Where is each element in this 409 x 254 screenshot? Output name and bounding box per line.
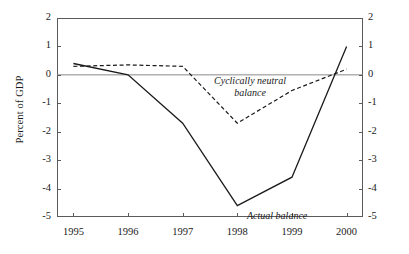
y-tickmark-left--3 bbox=[57, 160, 61, 161]
y-tick-right-1: 1 bbox=[368, 39, 390, 50]
x-tick-1995: 1995 bbox=[53, 226, 93, 237]
y-tick-left-0: 0 bbox=[29, 68, 51, 79]
x-tickmark-1998 bbox=[237, 213, 238, 217]
y-tickmark-right-1 bbox=[359, 46, 363, 47]
y-tickmark-left-1 bbox=[57, 46, 61, 47]
series-label-cyclically-neutral: Cyclically neutral balance bbox=[190, 75, 310, 98]
x-tickmark-2000 bbox=[347, 213, 348, 217]
y-tick-right-0: 0 bbox=[368, 68, 390, 79]
y-tickmark-right-0 bbox=[359, 75, 363, 76]
y-tickmark-right--1 bbox=[359, 103, 363, 104]
x-tickmark-1997 bbox=[183, 213, 184, 217]
x-tick-1996: 1996 bbox=[108, 226, 148, 237]
y-tick-right--1: -1 bbox=[368, 96, 390, 107]
y-tick-right--2: -2 bbox=[368, 125, 390, 136]
series-label-cyclically-neutral-line2: balance bbox=[190, 87, 310, 99]
x-tick-2000: 2000 bbox=[327, 226, 367, 237]
figure-panel: Percent of GDP 210-1-2-3-4-5 210-1-2-3-4… bbox=[0, 0, 409, 254]
y-tickmark-left--2 bbox=[57, 132, 61, 133]
x-tick-1999: 1999 bbox=[272, 226, 312, 237]
series-label-cyclically-neutral-line1: Cyclically neutral bbox=[190, 75, 310, 87]
x-tick-1998: 1998 bbox=[217, 226, 257, 237]
y-tickmark-left-0 bbox=[57, 75, 61, 76]
y-tick-left--4: -4 bbox=[29, 182, 51, 193]
y-tick-right--5: -5 bbox=[368, 210, 390, 221]
x-tickmark-1995 bbox=[73, 213, 74, 217]
y-tickmark-right--2 bbox=[359, 132, 363, 133]
y-tickmark-left--4 bbox=[57, 189, 61, 190]
y-tick-right--4: -4 bbox=[368, 182, 390, 193]
y-tick-left-1: 1 bbox=[29, 39, 51, 50]
y-tick-right--3: -3 bbox=[368, 153, 390, 164]
series-label-actual: Actual balance bbox=[247, 210, 337, 222]
series-line-actual-balance bbox=[73, 46, 346, 205]
y-tick-left-2: 2 bbox=[29, 11, 51, 22]
y-tick-left--3: -3 bbox=[29, 153, 51, 164]
y-tick-left--5: -5 bbox=[29, 210, 51, 221]
chart-series-layer bbox=[0, 0, 409, 254]
x-tick-1997: 1997 bbox=[163, 226, 203, 237]
y-tickmark-right--3 bbox=[359, 160, 363, 161]
y-tick-right-2: 2 bbox=[368, 11, 390, 22]
y-tickmark-left--1 bbox=[57, 103, 61, 104]
y-tickmark-right--4 bbox=[359, 189, 363, 190]
y-tick-left--1: -1 bbox=[29, 96, 51, 107]
y-tick-left--2: -2 bbox=[29, 125, 51, 136]
x-tickmark-1996 bbox=[128, 213, 129, 217]
